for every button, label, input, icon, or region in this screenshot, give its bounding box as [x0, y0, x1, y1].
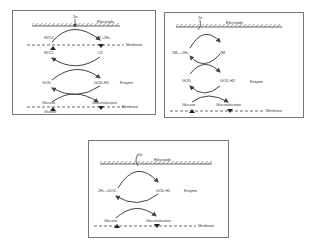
god-ox-label: 2H+ +GOD [98, 189, 116, 193]
membrane-bottom-label: Membrane [122, 105, 138, 109]
h2o2-top: H2O2 [44, 36, 53, 40]
enzyme-label: Enzyme [184, 189, 197, 193]
god-label: GOD [42, 81, 51, 85]
enzyme-label: Enzyme [250, 80, 263, 84]
electrode-label: Electrode [97, 19, 115, 24]
membrane-top-label: Membrane [126, 43, 142, 47]
god-h2-label: GOD-H2 [94, 81, 109, 85]
glucose-label: Glucose [42, 101, 55, 105]
panel-second-generation: Electrode 2e 2M+ +2H+ 2M GOD GOD-H2 Enzy… [164, 12, 304, 118]
h2o2-bottom: H2O2 [44, 51, 53, 55]
membrane-label: Membrane [266, 109, 282, 113]
diagram-first-generation: Electrode 2e H2O2 O2 +2H+ Membrane H2O2 … [12, 10, 156, 115]
o2-bottom: O2 [98, 51, 103, 55]
god-h2-label: GOD-H2 [220, 79, 235, 83]
mediator-red-label: 2M [220, 51, 225, 55]
diagram-third-generation: Electrode 2e 2H+ +GOD GOD-H2 Enzyme Gluc… [88, 140, 229, 238]
electron-label: 2e [138, 152, 143, 157]
glucose-label: Glucose [104, 219, 117, 223]
gluconolactone-label: Gluconolactone [146, 219, 171, 223]
electrode-label: Electrode [154, 157, 172, 162]
god-h2-label: GOD-H2 [156, 189, 170, 193]
panel-first-generation: Electrode 2e H2O2 O2 +2H+ Membrane H2O2 … [12, 10, 156, 115]
god-label: GOD [182, 79, 191, 83]
electrode-label: Electrode [226, 20, 244, 25]
enzyme-label: Enzyme [120, 81, 133, 85]
electron-label: 2e [198, 15, 203, 20]
glucose-label: Glucose [182, 103, 195, 107]
panel-third-generation: Electrode 2e 2H+ +GOD GOD-H2 Enzyme Gluc… [88, 140, 229, 238]
frame [165, 13, 304, 118]
gluconolactone-label: Gluconolactone [92, 101, 117, 105]
o2-top: O2 +2H+ [96, 36, 111, 40]
diagram-second-generation: Electrode 2e 2M+ +2H+ 2M GOD GOD-H2 Enzy… [164, 12, 304, 118]
electron-label: 2e [73, 14, 78, 19]
gluconolactone-label: Gluconolactone [216, 103, 241, 107]
mediator-ox-label: 2M+ +2H+ [172, 51, 189, 55]
glucose-below-label: Glucose [44, 110, 57, 114]
membrane-label: Membrane [198, 224, 214, 228]
